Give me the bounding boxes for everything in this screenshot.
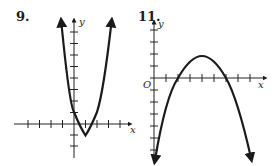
origin-label: O: [143, 79, 151, 90]
graph-9: y x: [14, 16, 136, 158]
y-axis-label: y: [157, 18, 164, 29]
parabola-curve: [155, 56, 251, 160]
x-axis-label: x: [130, 124, 136, 135]
parabola-curve: [61, 22, 111, 136]
x-axis-label: x: [258, 79, 264, 90]
graph-11: y x O: [143, 18, 265, 160]
graphs-canvas: y x y x: [0, 0, 272, 166]
y-axis-label: y: [78, 16, 85, 27]
